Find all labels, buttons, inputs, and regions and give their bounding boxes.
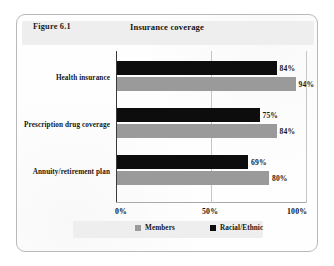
bar bbox=[117, 61, 277, 75]
legend-swatch-icon bbox=[135, 225, 141, 231]
bar-value-label: 75% bbox=[263, 111, 279, 120]
category-label: Annuity/retirement plan bbox=[33, 168, 110, 176]
bar bbox=[117, 108, 260, 122]
figure-card: Figure 6.1 Insurance coverage 84%94%75%8… bbox=[16, 14, 318, 252]
gridline-100 bbox=[306, 51, 307, 203]
legend-item[interactable]: Racial/Ethnic bbox=[210, 224, 263, 232]
bar-value-label: 69% bbox=[251, 158, 267, 167]
bar bbox=[117, 124, 277, 138]
legend-swatch-icon bbox=[210, 225, 216, 231]
bar-value-label: 84% bbox=[280, 127, 296, 136]
chart-title: Insurance coverage bbox=[17, 22, 317, 32]
bar-value-label: 94% bbox=[299, 80, 315, 89]
x-tick-label: 50% bbox=[202, 207, 218, 216]
bar bbox=[117, 171, 269, 185]
x-tick-label: 0% bbox=[115, 207, 127, 216]
legend-item[interactable]: Members bbox=[135, 224, 175, 232]
category-label: Health insurance bbox=[56, 74, 110, 82]
x-tick-label: 100% bbox=[287, 207, 307, 216]
legend-label: Members bbox=[145, 224, 175, 232]
legend-label: Racial/Ethnic bbox=[220, 224, 263, 232]
bar bbox=[117, 155, 248, 169]
category-label: Prescription drug coverage bbox=[24, 121, 110, 129]
bar-value-label: 84% bbox=[280, 64, 296, 73]
bar-value-label: 80% bbox=[272, 174, 288, 183]
bar bbox=[117, 77, 296, 91]
